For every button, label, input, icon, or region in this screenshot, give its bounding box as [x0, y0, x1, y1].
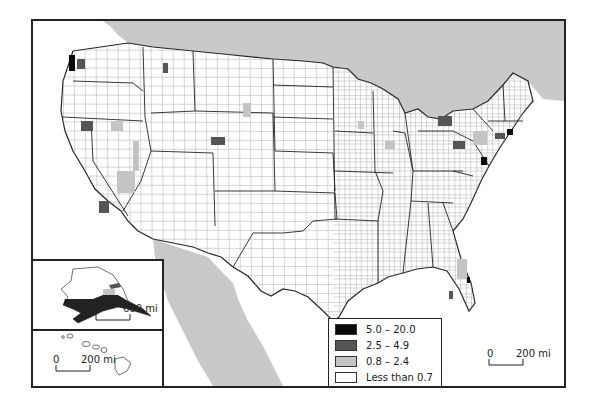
- county-class-1: [507, 129, 513, 135]
- hawaii-scale-zero: 0: [53, 354, 59, 365]
- county-class-3: [243, 103, 251, 117]
- scale-zero: 0: [487, 348, 493, 359]
- legend-item: 2.5 – 4.9: [335, 339, 409, 351]
- scale-line: [488, 359, 524, 367]
- legend-label: 5.0 – 20.0: [366, 324, 416, 335]
- hawaii-scale-line: [55, 365, 91, 373]
- alaska-scale-distance: 600 mi: [123, 303, 158, 314]
- legend-item: Less than 0.7: [335, 371, 433, 383]
- county-class-2: [81, 121, 93, 131]
- county-class-1: [481, 157, 487, 165]
- legend-swatch: [335, 340, 357, 351]
- alaska-scale-zero: 0: [93, 303, 99, 314]
- county-class-2: [495, 133, 505, 139]
- county-class-2: [449, 291, 453, 299]
- county-class-3: [457, 259, 467, 279]
- county-class-3: [473, 131, 487, 145]
- county-class-3: [111, 121, 123, 131]
- legend-item: 5.0 – 20.0: [335, 323, 416, 335]
- alaska-inset: 0 600 mi: [33, 259, 164, 329]
- county-class-2: [163, 63, 168, 73]
- alaska-scale-line: [95, 314, 131, 322]
- county-class-2: [453, 141, 465, 149]
- legend-label: Less than 0.7: [366, 372, 433, 383]
- legend-label: 2.5 – 4.9: [366, 340, 409, 351]
- county-class-2: [77, 59, 85, 69]
- county-class-2: [99, 201, 109, 213]
- county-class-3: [133, 141, 139, 171]
- county-class-1: [69, 55, 75, 71]
- scale-distance: 200 mi: [516, 348, 551, 359]
- legend: 5.0 – 20.0 2.5 – 4.9 0.8 – 2.4 Less than…: [328, 318, 442, 387]
- legend-item: 0.8 – 2.4: [335, 355, 409, 367]
- county-class-1: [467, 277, 470, 283]
- county-class-2: [438, 116, 452, 126]
- legend-swatch: [335, 372, 357, 383]
- legend-label: 0.8 – 2.4: [366, 356, 409, 367]
- county-class-3: [358, 121, 364, 129]
- hawaii-scale-distance: 200 mi: [81, 354, 116, 365]
- county-class-3: [117, 171, 135, 193]
- county-class-3: [385, 141, 395, 149]
- map-frame: 5.0 – 20.0 2.5 – 4.9 0.8 – 2.4 Less than…: [31, 19, 566, 388]
- county-class-2: [211, 137, 225, 145]
- hawaii-inset: 0 200 mi: [33, 329, 164, 388]
- legend-swatch: [335, 356, 357, 367]
- legend-swatch: [335, 324, 357, 335]
